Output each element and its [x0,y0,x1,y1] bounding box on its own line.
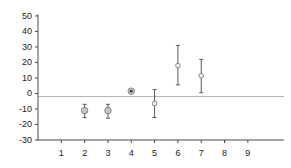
y-tick-label: -30 [19,135,32,145]
data-point-marker [152,101,157,106]
y-tick-label: 50 [22,11,32,21]
x-tick-label: 6 [175,148,180,158]
y-tick-label: -20 [19,119,32,129]
chart-canvas: 50403020100-10-20-30123456789 [0,0,291,168]
data-point-marker-center-dot [130,90,133,93]
data-point-marker [176,63,181,68]
y-tick-label: 10 [22,73,32,83]
x-tick-label: 5 [152,148,157,158]
y-tick-label: 0 [27,88,32,98]
data-point-marker [81,107,88,114]
error-bar-scatter-chart: 50403020100-10-20-30123456789 [0,0,291,168]
y-tick-label: 30 [22,42,32,52]
x-tick-label: 8 [222,148,227,158]
x-tick-label: 4 [129,148,134,158]
y-tick-label: 20 [22,57,32,67]
y-tick-label: 40 [22,26,32,36]
x-tick-label: 7 [199,148,204,158]
x-tick-label: 1 [59,148,64,158]
x-tick-label: 3 [105,148,110,158]
x-tick-label: 9 [245,148,250,158]
y-tick-label: -10 [19,104,32,114]
data-point-marker [199,73,204,78]
data-point-marker [105,107,112,114]
x-tick-label: 2 [82,148,87,158]
